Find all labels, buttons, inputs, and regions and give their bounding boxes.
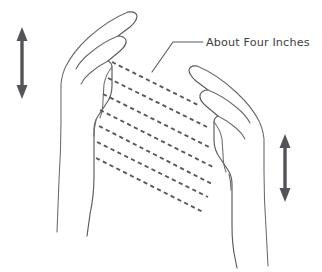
- right-hand-detail-finger-2: [208, 90, 250, 123]
- energy-line-6: [97, 142, 208, 197]
- right-hand-detail-thumb: [214, 122, 226, 172]
- left-arrow-head-down: [17, 85, 28, 99]
- right-hand-figure: [189, 66, 268, 268]
- annotation-label: About Four Inches: [206, 36, 310, 49]
- energy-line-4: [100, 110, 213, 167]
- left-arrow-shaft: [20, 35, 23, 92]
- right-arrow-head-up: [280, 134, 291, 148]
- energy-line-1: [112, 62, 200, 106]
- left-hand-detail-palm-crease: [94, 120, 96, 136]
- illustration-canvas: About Four Inches: [0, 0, 322, 272]
- energy-line-5: [99, 126, 212, 184]
- left-hand-figure: [57, 12, 137, 236]
- dashed-energy-lines: [96, 62, 213, 212]
- left-vertical-double-arrow: [17, 27, 28, 99]
- right-hand-outline: [189, 66, 237, 268]
- right-hand-detail-finger-3: [218, 116, 245, 139]
- left-hand-detail-finger-3: [81, 61, 108, 84]
- left-arrow-head-up: [17, 27, 28, 41]
- energy-line-2: [108, 78, 207, 127]
- right-arrow-shaft: [283, 142, 286, 195]
- annotation-leader-line: [152, 42, 203, 72]
- right-arrow-head-down: [280, 188, 291, 202]
- hand-energy-diagram: About Four Inches: [0, 0, 322, 272]
- right-vertical-double-arrow: [280, 134, 291, 202]
- energy-line-7: [96, 158, 203, 212]
